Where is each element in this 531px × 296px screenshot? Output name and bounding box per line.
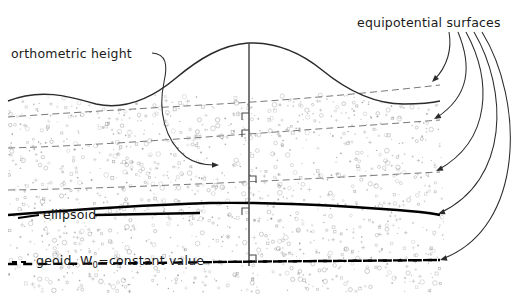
- equipotential-leader-3: [438, 32, 483, 170]
- equipotential-surfaces-label: equipotential surfaces: [357, 15, 501, 30]
- leader-lines-group: [152, 32, 510, 263]
- geoid-label: geoid, W0=constant value: [36, 253, 204, 270]
- orthometric-height-label: orthometric height: [11, 46, 132, 61]
- equipotential-surface-2: [8, 120, 440, 148]
- equipotential-leader-5: [442, 32, 510, 259]
- ellipsoid-label-tail: [95, 213, 200, 215]
- equipotential-leader-1: [434, 32, 450, 80]
- right-angle-marker: [242, 113, 249, 120]
- equipotential-leader-2: [436, 32, 466, 118]
- ellipsoid-label: ellipsoid: [43, 207, 96, 222]
- equipotential-leader-5-arrowhead: [439, 255, 447, 262]
- right-angle-marker: [242, 130, 249, 137]
- height-systems-figure: equipotential surfaces orthometric heigh…: [0, 0, 531, 296]
- orthometric-leader: [152, 53, 214, 165]
- equipotential-surface-1: [8, 85, 440, 117]
- geoid-label-prefix: geoid, W: [36, 253, 93, 268]
- geoid-label-suffix: =constant value: [98, 253, 204, 268]
- orthometric-leader-arrowhead: [212, 162, 219, 168]
- equipotential-leader-4: [440, 32, 497, 213]
- ellipsoid-label-tick: [18, 215, 39, 218]
- diagram-canvas: equipotential surfaces orthometric heigh…: [0, 0, 531, 296]
